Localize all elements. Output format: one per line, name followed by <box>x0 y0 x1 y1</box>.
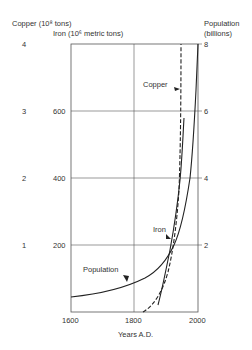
copper-label-arrow-icon <box>174 87 180 91</box>
chart-plot <box>0 0 252 350</box>
gridlines <box>71 44 198 312</box>
population-curve <box>71 44 198 297</box>
iron-label-arrow-icon <box>166 234 171 239</box>
population-label-arrow-icon <box>123 275 129 282</box>
